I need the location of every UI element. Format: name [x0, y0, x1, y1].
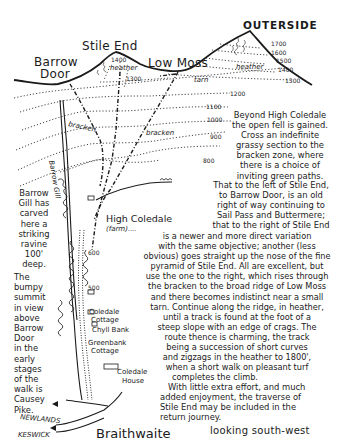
description-line: use the one to the right, which rises th… [126, 271, 348, 281]
description-line: tarn. Continue along the ridge, in heath… [126, 302, 348, 312]
contour-label: 1600 [271, 50, 286, 56]
description-line: Stile End may be included in the [160, 402, 340, 412]
description-line: That to the left of Stile End, [196, 180, 346, 190]
note-line: in the [14, 343, 54, 353]
note-line: Barrow [14, 323, 54, 333]
contour-label: 800 [203, 158, 214, 164]
summit-label-barrow-door-2: Door [40, 68, 70, 80]
route-description-middle: That to the left of Stile End, to Barrow… [196, 180, 346, 230]
description-line: steep slope with an edge of crags. The [126, 322, 348, 332]
note-line: ravine [14, 239, 54, 249]
terrain-label-tarn: tarn [194, 77, 208, 84]
contour-label: 1200 [230, 91, 245, 97]
note-barrow-gill: Barrow Gill has carved here a striking r… [14, 188, 54, 270]
contour-label: 1400 [111, 57, 126, 63]
description-line: to Barrow Door, is an old [196, 190, 346, 200]
place-label-greenbank-cottage-2: Cottage [91, 348, 119, 355]
contour-label: 1300 [126, 76, 141, 82]
contour-label: 600 [88, 250, 99, 256]
place-label-coledale-cottage-1: Coledale [89, 309, 119, 316]
description-line: Sail Pass and Buttermere; [196, 210, 346, 220]
route-description-lower: is a newer and more direct variation wit… [126, 231, 348, 382]
place-label-braithwaite: Braithwaite [96, 427, 170, 440]
description-line: pyramid of Stile End. All are excellent,… [126, 261, 348, 271]
route-description-return: With little extra effort, and much added… [160, 382, 340, 422]
description-line: when a short walk on pleasant turf [126, 362, 348, 372]
description-line: With little extra effort, and much [160, 382, 340, 392]
description-line: with the same objective; another (less [126, 241, 348, 251]
note-line: Barrow [14, 188, 54, 198]
note-line: in view [14, 303, 54, 313]
note-line: The [14, 272, 54, 282]
summit-label-stile-end: Stile End [82, 40, 138, 52]
contour-label: 1400 [278, 67, 293, 73]
description-line: Cross an indefinite [220, 130, 340, 140]
description-line: route thence is charming, the track [126, 332, 348, 342]
description-line: bracken zone, where [220, 150, 340, 160]
note-line: here a [14, 219, 54, 229]
description-line: until a track is found at the foot of a [126, 312, 348, 322]
note-line: early [14, 354, 54, 364]
note-line: carved [14, 208, 54, 218]
summit-label-outerside: OUTERSIDE [243, 20, 317, 31]
description-line: and zigzags in the heather to 1800', [126, 352, 348, 362]
contour-label: 1500 [276, 58, 291, 64]
note-line: Gill has [14, 198, 54, 208]
place-label-coledale-cottage-2: Cottage [91, 317, 119, 324]
contour-label: 1100 [206, 104, 221, 110]
note-line: Pike. [14, 405, 54, 415]
note-line: striking [14, 229, 54, 239]
note-line: Door [14, 333, 54, 343]
description-line: added enjoyment, the traverse of [160, 392, 340, 402]
note-bumpy-summit: The bumpy summit in view above Barrow Do… [14, 272, 54, 415]
description-line: the bracken to the broad ridge of Low Mo… [126, 281, 348, 291]
note-line: deep. [14, 259, 54, 269]
note-line: of the [14, 374, 54, 384]
description-line: obvious) goes straight up the nose of th… [126, 251, 348, 261]
note-line: stages [14, 364, 54, 374]
description-line: is a newer and more direct variation [126, 231, 348, 241]
description-line: return journey. [160, 412, 340, 422]
note-line: Causey [14, 394, 54, 404]
terrain-label-bracken-2: bracken [146, 130, 174, 137]
note-line: bumpy [14, 282, 54, 292]
place-label-keswick: KESWICK [18, 432, 50, 439]
description-line: right of way continuing to [196, 200, 346, 210]
note-line: 100' [14, 249, 54, 259]
route-description-upper: Beyond High Coledale the open fell is ga… [220, 110, 340, 181]
description-line: that to the right of Stile End [196, 220, 346, 230]
description-line: there is a choice of [220, 160, 340, 170]
place-label-chyll-bank: Chyll Bank [92, 327, 129, 334]
description-line: Beyond High Coledale [220, 110, 340, 120]
place-label-high-coledale: High Coledale [106, 214, 172, 224]
description-line: completes the climb. [126, 372, 348, 382]
contour-label: 1700 [271, 41, 286, 47]
terrain-label-heather-right: heather [236, 64, 263, 71]
note-line: summit [14, 292, 54, 302]
description-line: the open fell is gained. [220, 120, 340, 130]
description-line: and there becomes indistinct near a smal… [126, 292, 348, 302]
route-diagram: Stile End OUTERSIDE Barrow Door Low Moss… [0, 0, 348, 442]
summit-label-low-moss: Low Moss [148, 57, 208, 69]
place-label-greenbank-cottage-1: Greenbank [88, 340, 126, 347]
contour-label: 1300 [285, 78, 300, 84]
description-line: being a succession of short curves [126, 342, 348, 352]
description-line: grassy section to the [220, 140, 340, 150]
contour-label: 500 [88, 285, 99, 291]
view-direction-caption: looking south-west [210, 425, 310, 436]
note-line: walk is [14, 384, 54, 394]
note-line: above [14, 313, 54, 323]
terrain-label-heather-left: heather [110, 65, 137, 72]
